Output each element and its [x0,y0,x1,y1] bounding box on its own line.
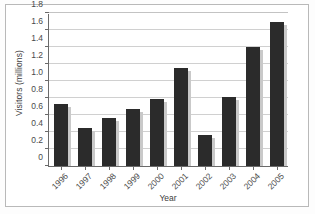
bar [150,99,165,166]
y-tick-label: 1.8 [31,0,43,9]
x-tick-mark [253,166,254,170]
gridline [49,29,288,30]
x-tick-mark [109,166,110,170]
y-axis-title: Visitors (millions) [14,23,24,143]
y-tick-label: 1.6 [31,16,43,26]
y-tick-mark [45,148,49,149]
bar [78,128,93,166]
bar [102,118,117,166]
y-tick-label: 0.6 [31,101,43,111]
x-tick-mark [277,166,278,170]
bar [126,109,141,166]
y-tick-label: 0.2 [31,135,43,145]
bar-chart-figure: Visitors (millions) Year 00.20.40.60.81.… [0,0,315,214]
y-tick-mark [45,80,49,81]
y-tick-label: 0.8 [31,84,43,94]
bar [174,68,189,166]
x-tick-mark [133,166,134,170]
x-tick-mark [157,166,158,170]
bar [198,135,213,166]
bar [54,104,69,166]
bar [270,22,285,167]
y-tick-mark [45,131,49,132]
bar [222,97,237,166]
y-tick-mark [45,12,49,13]
y-tick-label: 1.0 [31,67,43,77]
y-tick-label: 1.4 [31,33,43,43]
x-tick-mark [181,166,182,170]
y-tick-mark [45,63,49,64]
y-tick-mark [45,29,49,30]
y-tick-label: 0 [38,152,43,162]
y-tick-mark [45,46,49,47]
y-tick-mark [45,114,49,115]
y-tick-mark [45,165,49,166]
gridline [49,12,288,13]
y-tick-label: 1.2 [31,50,43,60]
x-tick-mark [61,166,62,170]
plot-area: 00.20.40.60.81.01.21.41.61.8 19961997199… [48,14,288,167]
y-tick-label: 0.4 [31,118,43,128]
x-tick-mark [85,166,86,170]
x-tick-mark [205,166,206,170]
x-tick-mark [229,166,230,170]
y-tick-mark [45,97,49,98]
bar [246,47,261,166]
